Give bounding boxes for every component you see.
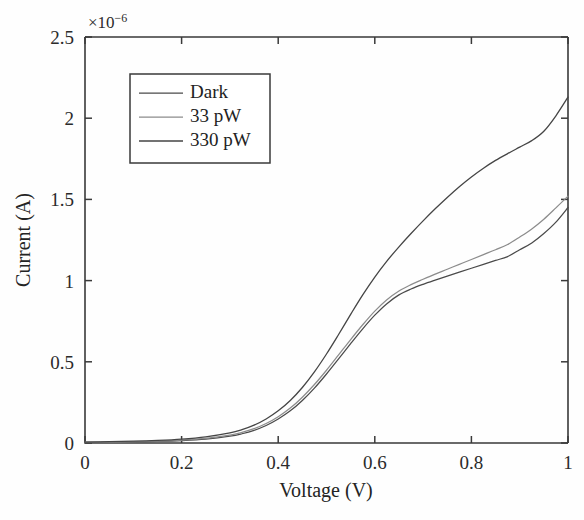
chart-canvas: 00.20.40.60.81 00.511.522.5 ×10−6 Voltag… (0, 0, 584, 520)
x-tick-label-1: 0.2 (170, 452, 194, 473)
y-tick-label-3: 1.5 (50, 189, 74, 210)
x-tick-label-5: 1 (563, 452, 573, 473)
y-tick-label-5: 2.5 (50, 27, 74, 48)
series-line-dark (85, 208, 568, 443)
x-tick-label-0: 0 (80, 452, 90, 473)
y-tick-label-4: 2 (65, 108, 75, 129)
y-axis-title: Current (A) (12, 193, 35, 287)
y-tick-label-0: 0 (65, 433, 75, 454)
x-tick-labels: 00.20.40.60.81 (80, 452, 573, 473)
y-tick-label-1: 0.5 (50, 352, 74, 373)
legend-label-0: Dark (190, 81, 228, 102)
x-axis-title: Voltage (V) (279, 479, 373, 502)
chart-figure: 00.20.40.60.81 00.511.522.5 ×10−6 Voltag… (0, 0, 584, 520)
y-tick-labels: 00.511.522.5 (50, 27, 74, 454)
x-tick-label-3: 0.6 (363, 452, 387, 473)
legend-label-1: 33 pW (190, 105, 241, 126)
x-tick-label-2: 0.4 (266, 452, 290, 473)
series-line-33-pw (85, 196, 568, 442)
legend: Dark33 pW330 pW (130, 74, 270, 163)
y-tick-label-2: 1 (65, 271, 75, 292)
y-axis-multiplier: ×10−6 (88, 11, 127, 32)
legend-label-2: 330 pW (190, 129, 251, 150)
x-tick-label-4: 0.8 (460, 452, 484, 473)
